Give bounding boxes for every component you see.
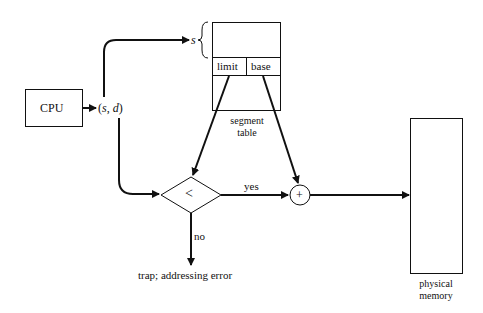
comma: , bbox=[107, 101, 110, 115]
no-label: no bbox=[194, 231, 205, 242]
segment-table-label-line2: table bbox=[222, 127, 272, 139]
physical-memory-box bbox=[411, 119, 463, 274]
physical-memory-label: physical memory bbox=[411, 278, 461, 302]
diagram-canvas bbox=[0, 0, 483, 313]
paren-close: ) bbox=[119, 101, 123, 115]
physical-memory-label-line1: physical bbox=[411, 278, 461, 290]
segment-number-path bbox=[104, 40, 189, 97]
trap-label: trap; addressing error bbox=[138, 270, 232, 281]
segment-selector-s: s bbox=[191, 34, 196, 46]
logical-address-label: (s, d) bbox=[98, 102, 123, 114]
segment-table-label-line1: segment bbox=[222, 115, 272, 127]
cpu-label: CPU bbox=[40, 102, 63, 114]
segment-brace bbox=[198, 22, 208, 58]
offset-path bbox=[119, 118, 159, 194]
compare-symbol: < bbox=[185, 187, 193, 201]
physical-memory-label-line2: memory bbox=[411, 290, 461, 302]
limit-label: limit bbox=[217, 61, 238, 72]
segment-table-label: segment table bbox=[222, 115, 272, 139]
adder-symbol: + bbox=[296, 189, 303, 201]
yes-label: yes bbox=[244, 181, 259, 192]
base-label: base bbox=[251, 61, 271, 72]
